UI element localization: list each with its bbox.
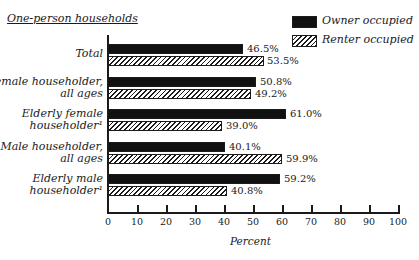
bar-owner-female <box>108 77 256 87</box>
x-tick-label: 40 <box>209 216 239 227</box>
category-label: Male householder,all ages <box>0 141 103 165</box>
category-label: Elderly femalehouseholder¹ <box>22 108 103 132</box>
bar-owner-elderly-female <box>108 109 286 119</box>
x-tick <box>224 205 226 212</box>
value-label: 53.5% <box>267 56 299 66</box>
x-tick-label: 100 <box>383 216 413 227</box>
bar-renter-female <box>108 89 251 99</box>
x-tick <box>137 205 139 212</box>
x-tick-label: 50 <box>238 216 268 227</box>
value-label: 40.1% <box>229 142 261 152</box>
value-label: 59.9% <box>286 154 318 164</box>
x-tick <box>311 205 313 212</box>
legend-label: Owner occupied <box>322 14 413 27</box>
bar-renter-elderly-female <box>108 121 222 131</box>
category-label: Elderly malehouseholder¹ <box>30 173 103 197</box>
x-tick-label: 0 <box>93 216 123 227</box>
x-tick-label: 20 <box>151 216 181 227</box>
x-tick <box>340 205 342 212</box>
value-label: 50.8% <box>260 77 292 87</box>
x-tick <box>166 205 168 212</box>
value-label: 40.8% <box>231 186 263 196</box>
x-tick <box>253 205 255 212</box>
bar-owner-elderly-male <box>108 174 280 184</box>
x-tick-label: 70 <box>296 216 326 227</box>
bar-renter-total <box>108 56 264 66</box>
value-label: 39.0% <box>226 121 258 131</box>
x-tick <box>195 205 197 212</box>
bar-owner-male <box>108 142 225 152</box>
value-label: 59.2% <box>284 174 316 184</box>
x-tick-label: 10 <box>122 216 152 227</box>
x-tick-label: 60 <box>267 216 297 227</box>
x-axis-line <box>107 212 400 214</box>
legend-label: Renter occupied <box>322 33 414 46</box>
value-label: 49.2% <box>255 89 287 99</box>
legend-swatch-hatched-icon <box>292 35 317 47</box>
category-label: Total <box>75 48 103 60</box>
x-axis-label: Percent <box>230 235 271 247</box>
bar-owner-total <box>108 44 243 54</box>
x-tick-label: 80 <box>325 216 355 227</box>
x-tick-label: 30 <box>180 216 210 227</box>
category-label: Female householder,all ages <box>0 76 103 100</box>
x-tick-label: 90 <box>354 216 384 227</box>
x-tick <box>282 205 284 212</box>
chart-title: One-person households <box>7 12 138 25</box>
bar-renter-male <box>108 154 282 164</box>
x-tick <box>369 205 371 212</box>
bar-renter-elderly-male <box>108 186 227 196</box>
value-label: 46.5% <box>247 44 279 54</box>
x-tick <box>398 205 400 212</box>
legend-swatch-solid-icon <box>292 16 317 28</box>
value-label: 61.0% <box>290 109 322 119</box>
